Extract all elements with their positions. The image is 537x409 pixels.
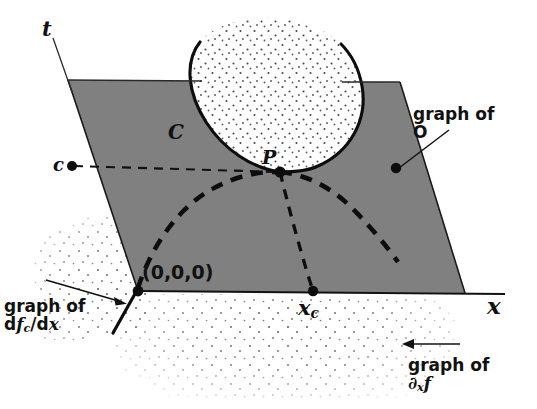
annotation-partial-line2: ∂xf <box>408 373 431 393</box>
annotation-graph-of-o-line1: graph of <box>413 104 494 124</box>
dot-graph-of-O <box>391 163 401 173</box>
dot-point-P <box>274 166 285 177</box>
axis-label-x: x <box>487 294 501 318</box>
f-symbol: f <box>16 314 23 334</box>
axis-tick-label-xc: xc <box>298 297 319 321</box>
axis-label-t: t <box>42 18 52 40</box>
annotation-dfc-dx-line1: graph of <box>4 296 85 316</box>
annotation-graph-of-partial-x-f: graph of∂xf <box>408 356 489 394</box>
xc-base: x <box>298 295 311 320</box>
point-label-p: P <box>262 147 276 167</box>
partial-subscript: x <box>417 380 424 394</box>
diagram-svg <box>0 0 537 409</box>
t-axis-line <box>53 38 72 92</box>
point-label-c-lowercase: c <box>53 155 64 174</box>
figure-canvas: t x C P c (0,0,0) xc graph ofO graph ofd… <box>0 0 537 409</box>
annotation-graph-of-o-line2: O <box>413 122 427 142</box>
xc-subscript: c <box>311 305 319 321</box>
annotation-graph-of-o: graph ofO <box>413 105 494 141</box>
annotation-dfc-dx-line2: dfc/dx <box>4 314 59 334</box>
partial-symbol: ∂ <box>408 373 417 393</box>
d-prefix: d <box>4 314 16 334</box>
origin-label: (0,0,0) <box>142 262 213 282</box>
annotation-partial-line1: graph of <box>408 355 489 375</box>
annotation-graph-of-dfc-dx: graph ofdfc/dx <box>4 297 85 335</box>
dot-origin <box>133 286 144 297</box>
x-symbol: x <box>49 314 59 334</box>
f-symbol-partial: f <box>424 373 431 393</box>
curve-label-c-uppercase: C <box>168 122 184 143</box>
dot-point-c <box>67 161 77 171</box>
slash-d: /d <box>30 314 48 334</box>
